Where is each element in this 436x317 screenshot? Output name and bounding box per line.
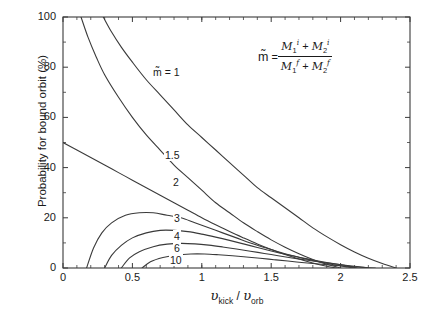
curve-1: [103, 17, 396, 268]
curve-label-1.5: 1.5: [164, 149, 181, 161]
x-tick-0.5: 0.5: [112, 271, 152, 283]
x-tick-2.5: 2.5: [390, 271, 430, 283]
x-axis-label-denominator: υorb: [243, 288, 263, 303]
y-tick-20: 20: [26, 211, 56, 223]
x-tick-2: 2: [321, 271, 361, 283]
formula-fraction: M1i + M2i M1f + M2f: [278, 38, 333, 75]
curve-label-1: m̃ = 1: [152, 66, 181, 78]
y-tick-60: 60: [26, 110, 56, 122]
figure-container: Probability for bound orbit (%) υkick / …: [0, 0, 436, 317]
formula-lhs: m̃: [258, 50, 268, 64]
x-axis-label-slash: /: [237, 289, 240, 303]
plot-canvas: [0, 0, 436, 317]
curve-label-4: 4: [173, 230, 181, 242]
curve-label-3: 3: [173, 212, 181, 224]
curve-2: [63, 143, 336, 269]
x-axis-label-numerator: υkick: [211, 288, 234, 303]
y-tick-100: 100: [26, 10, 56, 22]
formula-denominator: M1f + M2f: [278, 57, 333, 75]
curve-label-2: 2: [172, 176, 180, 188]
formula-numerator: M1i + M2i: [278, 38, 332, 57]
y-tick-0: 0: [26, 261, 56, 273]
curve-label-6: 6: [173, 242, 181, 254]
y-tick-80: 80: [26, 60, 56, 72]
formula-annotation: m̃ = M1i + M2i M1f + M2f: [258, 38, 333, 75]
data-curves: [63, 17, 396, 268]
y-tick-40: 40: [26, 161, 56, 173]
curve-label-10: 10: [169, 254, 183, 266]
x-tick-1.5: 1.5: [251, 271, 291, 283]
x-tick-1: 1: [182, 271, 222, 283]
x-axis-label: υkick / υorb: [63, 288, 411, 306]
axis-ticks: [63, 17, 410, 268]
plot-frame: [63, 17, 410, 268]
